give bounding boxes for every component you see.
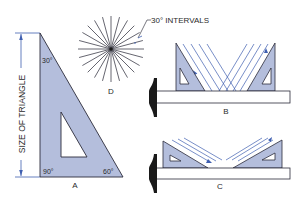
figure-a-label: A [72,181,78,190]
figure-b-tsquare-blade [150,91,290,103]
drafting-triangles-diagram: SIZE OF TRIANGLE 30° 90° 60° A [0,0,304,204]
size-dimension: SIZE OF TRIANGLE [15,33,40,177]
figure-c: C [149,137,290,193]
interval-leader-line [138,20,151,38]
angle-90-label: 90° [43,168,54,175]
figure-c-tsquare-blade [150,168,290,179]
figure-c-label: C [217,182,223,191]
arrow-down-icon [19,170,23,176]
figure-b-left-triangle [176,43,205,91]
figure-b: B [149,43,290,117]
figure-b-right-triangle [247,43,275,91]
figure-b-tsquare-head [149,78,157,117]
figure-c-left-triangle [163,141,208,168]
figure-d-label: D [108,87,114,96]
size-of-triangle-label: SIZE OF TRIANGLE [17,74,27,153]
intervals-annotation: 30° INTERVALS [151,16,209,25]
figure-b-label: B [223,107,228,116]
center-point [109,47,113,51]
angle-30-label: 30° [42,57,53,64]
figure-c-tsquare-head [149,154,157,193]
arrow-up-icon [19,34,23,40]
angle-60-label: 60° [103,168,114,175]
